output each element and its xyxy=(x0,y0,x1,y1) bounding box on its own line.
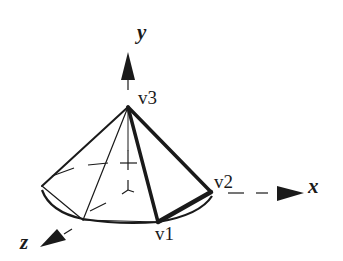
z-axis-label: z xyxy=(20,232,28,253)
y-axis-arrowhead-icon xyxy=(121,52,135,80)
cone-edges xyxy=(42,107,128,220)
edge-left-front xyxy=(42,186,83,220)
vertex-label-v2: v2 xyxy=(214,172,233,191)
highlighted-triangle xyxy=(128,107,211,222)
y-axis xyxy=(121,52,135,90)
x-axis-arrowhead-icon xyxy=(277,186,304,201)
z-axis xyxy=(40,229,72,247)
vertex-label-v3: v3 xyxy=(138,88,157,107)
z-axis-arrowhead-icon xyxy=(40,229,66,247)
y-axis-label: y xyxy=(137,22,146,43)
edge-v1-v2 xyxy=(158,192,211,222)
x-axis xyxy=(256,186,304,201)
x-axis-label: x xyxy=(308,176,319,197)
cone-diagram xyxy=(0,0,343,261)
y-axis-hidden xyxy=(120,150,137,194)
vertex-label-v1: v1 xyxy=(155,224,174,243)
edge-apex-left xyxy=(42,107,128,186)
